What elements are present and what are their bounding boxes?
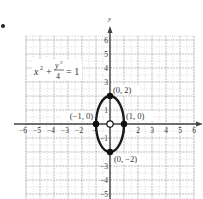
y-axis-label: y: [107, 15, 112, 23]
x-tick-label: 5: [178, 126, 182, 135]
x-tick-label: 6: [192, 126, 196, 135]
x-tick-label: 3: [150, 126, 154, 135]
ellipse-graph: −6−5−4−3−2123456−65431−1−3−4−5 (0, 2)(0,…: [0, 0, 203, 199]
point-marker: [121, 121, 126, 126]
eq-x: x: [33, 66, 39, 77]
y-tick-label: 6: [104, 36, 108, 45]
point-marker: [107, 93, 112, 98]
y-tick-label: −4: [100, 176, 108, 185]
point-label: (−1, 0): [70, 111, 93, 121]
point-marker: [93, 121, 98, 126]
point-marker: [107, 149, 112, 154]
x-tick-label: −3: [61, 126, 69, 135]
center-marker: [107, 121, 113, 127]
point-label: (1, 0): [126, 111, 145, 121]
eq-plus: +: [46, 66, 52, 77]
y-tick-label: −1: [100, 134, 108, 143]
x-tick-label: 4: [164, 126, 168, 135]
y-tick-label: 5: [104, 50, 108, 59]
y-tick-label: 3: [104, 78, 108, 87]
x-tick-label: −6: [19, 126, 27, 135]
x-axis-arrow: [196, 122, 203, 127]
y-tick-label: 4: [104, 64, 108, 73]
point-label: (0, −2): [114, 154, 137, 164]
equation-label: x 2 + y 2 4 = 1: [32, 59, 82, 81]
eq-x-exp: 2: [40, 65, 43, 71]
y-tick-label: 1: [104, 106, 108, 115]
x-tick-label: −2: [75, 126, 83, 135]
eq-equals: = 1: [66, 66, 79, 77]
x-tick-label: 2: [136, 126, 140, 135]
y-axis-arrow: [108, 26, 113, 33]
x-tick-label: −4: [47, 126, 55, 135]
eq-frac-den: 4: [56, 72, 60, 81]
eq-frac-num: y: [54, 61, 59, 70]
point-label: (0, 2): [113, 85, 132, 95]
y-tick-label: −5: [100, 190, 108, 199]
x-tick-label: −5: [33, 126, 41, 135]
y-tick-label: −3: [100, 162, 108, 171]
